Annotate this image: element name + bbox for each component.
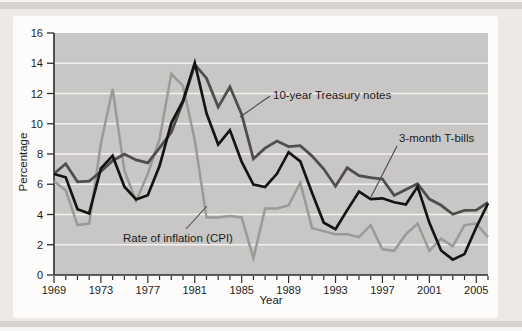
y-axis-title: Percentage <box>17 133 29 192</box>
x-tick-label-1977: 1977 <box>136 284 160 296</box>
x-tick-label-1997: 1997 <box>370 284 394 296</box>
x-tick-label-1969: 1969 <box>42 284 66 296</box>
x-tick-label-1993: 1993 <box>323 284 347 296</box>
series-label-10-year-treasury-notes: 10-year Treasury notes <box>273 88 391 102</box>
x-tick-label-1985: 1985 <box>229 284 253 296</box>
y-tick-label-10: 10 <box>31 118 43 130</box>
x-tick-label-2005: 2005 <box>464 284 488 296</box>
x-tick-label-2001: 2001 <box>417 284 441 296</box>
interest-rates-chart: 0246810121416196919731977198119851989199… <box>0 0 522 331</box>
figure-page: 0246810121416196919731977198119851989199… <box>0 0 522 331</box>
x-axis-title: Year <box>259 294 282 306</box>
y-tick-label-12: 12 <box>31 88 43 100</box>
y-tick-label-4: 4 <box>37 209 43 221</box>
x-tick-label-1973: 1973 <box>89 284 113 296</box>
y-tick-label-8: 8 <box>37 148 43 160</box>
y-tick-label-16: 16 <box>31 27 43 39</box>
y-tick-label-6: 6 <box>37 178 43 190</box>
y-tick-label-2: 2 <box>37 239 43 251</box>
y-tick-label-0: 0 <box>37 269 43 281</box>
y-tick-label-14: 14 <box>31 57 43 69</box>
series-label-rate-of-inflation-cpi: Rate of inflation (CPI) <box>123 231 233 245</box>
x-tick-label-1981: 1981 <box>183 284 207 296</box>
series-label-3-month-t-bills: 3-month T-bills <box>399 131 474 145</box>
